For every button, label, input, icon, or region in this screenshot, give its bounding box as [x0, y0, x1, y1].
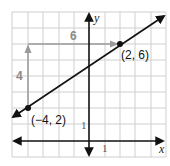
x-axis-label: x [158, 142, 165, 156]
point-2-6 [117, 41, 123, 47]
x-tick-label: 1 [102, 142, 108, 154]
point-label-neg4-2: (−4, 2) [31, 113, 66, 127]
coordinate-plane: (−4, 2) (2, 6) 6 4 y x 1 1 [0, 0, 170, 166]
y-tick-label: 1 [81, 119, 87, 131]
run-label: 6 [70, 29, 77, 43]
y-axis-label: y [93, 11, 100, 25]
point-label-2-6: (2, 6) [121, 48, 149, 62]
rise-label: 4 [16, 69, 23, 83]
point-neg4-2 [25, 105, 31, 111]
